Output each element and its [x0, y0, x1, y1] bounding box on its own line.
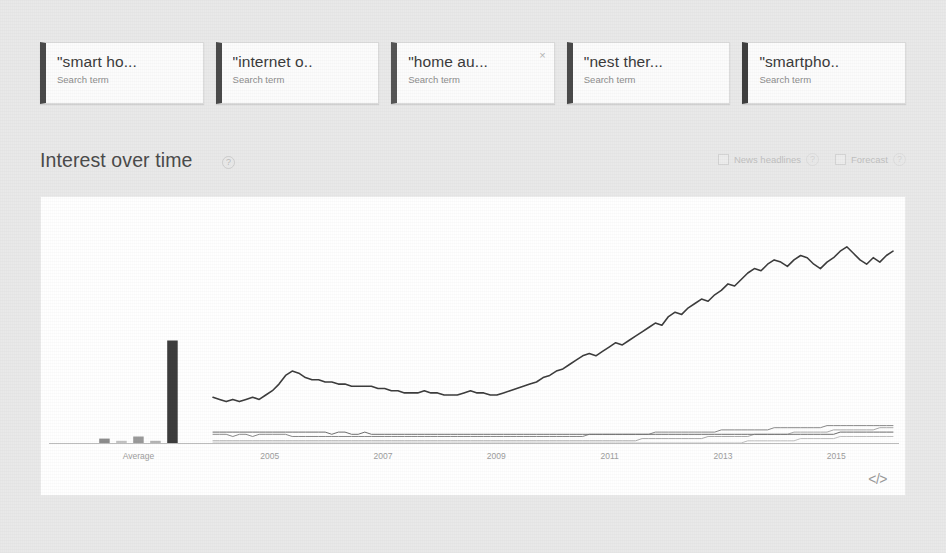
- search-term-subtitle: Search term: [408, 74, 544, 86]
- chart-options: News headlines?Forecast?: [718, 153, 906, 166]
- search-terms-row: "smart ho...Search term"internet o..Sear…: [40, 42, 906, 104]
- chart-option-label: Forecast: [851, 154, 888, 165]
- chart-option[interactable]: Forecast?: [835, 153, 906, 166]
- interest-over-time-chart: Average200520072009201120132015 </>: [40, 196, 906, 496]
- search-term-card[interactable]: "internet o..Search term: [216, 42, 380, 104]
- search-term-subtitle: Search term: [57, 74, 193, 86]
- search-term-card[interactable]: "smartpho..Search term: [742, 42, 906, 104]
- x-axis-tick-label: 2005: [260, 451, 279, 461]
- checkbox-icon[interactable]: [718, 154, 729, 165]
- close-icon[interactable]: ×: [539, 50, 545, 61]
- x-axis-tick-label: 2013: [714, 451, 733, 461]
- chart-option-label: News headlines: [734, 154, 801, 165]
- search-term-subtitle: Search term: [759, 74, 895, 86]
- chart-option[interactable]: News headlines?: [718, 153, 819, 166]
- checkbox-icon[interactable]: [835, 154, 846, 165]
- search-term-title: "home au...: [408, 52, 544, 71]
- search-term-title: "smart ho...: [57, 52, 193, 71]
- trends-page: "smart ho...Search term"internet o..Sear…: [0, 0, 946, 553]
- section-header: Interest over time ? News headlines?Fore…: [40, 148, 906, 178]
- search-term-subtitle: Search term: [584, 74, 720, 86]
- series-line: [213, 437, 893, 444]
- search-term-title: "nest ther...: [584, 52, 720, 71]
- x-axis-tick-label: 2007: [374, 451, 393, 461]
- x-axis-tick-label: 2011: [601, 451, 620, 461]
- x-axis-tick-label: Average: [123, 451, 155, 461]
- search-term-card[interactable]: "nest ther...Search term: [567, 42, 731, 104]
- help-icon[interactable]: ?: [893, 153, 906, 166]
- chart-canvas: Average200520072009201120132015: [41, 197, 907, 497]
- search-term-title: "smartpho..: [759, 52, 895, 71]
- average-bar: [99, 439, 110, 443]
- search-term-title: "internet o..: [233, 52, 369, 71]
- series-line: [213, 426, 893, 437]
- average-bar-group: [99, 341, 178, 444]
- help-icon[interactable]: ?: [222, 156, 235, 169]
- page-title: Interest over time: [40, 148, 192, 172]
- x-axis-tick-label: 2015: [827, 451, 846, 461]
- search-term-subtitle: Search term: [233, 74, 369, 86]
- average-bar: [133, 437, 144, 444]
- x-axis-tick-label: 2009: [487, 451, 506, 461]
- embed-code-icon[interactable]: </>: [868, 471, 887, 487]
- series-line: [213, 247, 893, 402]
- average-bar: [116, 441, 127, 443]
- help-icon[interactable]: ?: [806, 153, 819, 166]
- average-bar: [167, 341, 178, 444]
- average-bar: [150, 441, 161, 443]
- search-term-card[interactable]: "home au...Search term×: [391, 42, 555, 104]
- search-term-card[interactable]: "smart ho...Search term: [40, 42, 204, 104]
